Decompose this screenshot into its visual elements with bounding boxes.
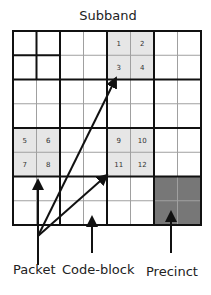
code-block-number: 4 [140, 64, 145, 72]
code-block-number: 7 [23, 161, 27, 169]
code-block-number: 2 [140, 40, 144, 48]
code-block-number: 1 [117, 40, 121, 48]
packet-label: Packet [13, 262, 56, 277]
code-block-number: 10 [138, 137, 147, 145]
subband-grid-diagram: 1 2 3 4 5 6 7 8 9 10 11 12 [0, 0, 211, 295]
code-block-number: 5 [23, 137, 27, 145]
code-block-number: 3 [117, 64, 121, 72]
code-block-number: 11 [114, 161, 123, 169]
code-block-number: 9 [117, 137, 121, 145]
code-block-number: 8 [46, 161, 50, 169]
precinct-label: Precinct [146, 264, 198, 279]
code-block-number: 6 [46, 137, 51, 145]
code-block-label: Code-block [62, 262, 134, 277]
code-block-number: 12 [138, 161, 147, 169]
